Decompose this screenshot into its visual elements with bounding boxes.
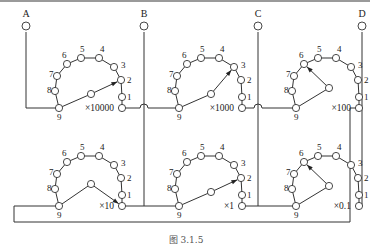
contact-label: 7 [169,69,174,79]
contact-label: 2 [247,173,252,183]
contact-label: 9 [294,210,299,220]
contact-label: 6 [182,148,187,158]
contact [183,158,190,165]
terminal-a: A [22,8,30,30]
contact [63,60,70,67]
contact [332,152,339,159]
contact [55,202,62,209]
resistance-box-diagram: 123456789×10000123456789×1000123456789×1… [0,0,370,251]
contact-label: 9 [57,112,62,122]
contact-label: 3 [241,158,246,168]
decade-switches: 123456789×10000123456789×1000123456789×1… [47,44,369,220]
terminal-label: A [22,8,30,19]
contact [63,158,70,165]
contact [347,63,354,70]
multiplier-label: ×1 [224,201,234,211]
contact [173,170,180,177]
terminal-post-icon [140,22,148,30]
contact-label: 7 [286,167,291,177]
contact-label: 3 [241,60,246,70]
terminal-label: B [141,8,148,19]
decade-switch: 123456789×10 [47,142,132,220]
contact-label: 5 [80,44,85,54]
contact-label: 8 [167,85,172,95]
multiplier-label: ×1000 [210,103,235,113]
contact-label: 5 [317,44,322,54]
contact-label: 2 [364,173,369,183]
switch-pivot [207,90,214,97]
contact [314,152,321,159]
contact-label: 4 [220,44,225,54]
contact-label: 1 [127,190,132,200]
contact-label: 1 [247,190,252,200]
switch-pivot [87,180,94,187]
contact [290,170,297,177]
decade-switch: 123456789×0.1 [284,142,369,220]
terminal-b: B [140,8,148,30]
contact [117,76,124,83]
contact-label: 3 [358,158,363,168]
contact-label: 7 [169,167,174,177]
contact-label: 2 [127,173,132,183]
contact [175,202,182,209]
contact [77,152,84,159]
contact [171,87,178,94]
contact-label: 9 [294,112,299,122]
decade-switch: 123456789×100 [284,44,369,122]
contact [110,63,117,70]
contact-label: 4 [100,44,105,54]
contact [354,76,361,83]
contact-label: 8 [284,183,289,193]
contact-label: 7 [286,69,291,79]
decade-switch: 123456789×1 [167,142,252,220]
arrow-icon [111,82,117,87]
contact-label: 5 [317,142,322,152]
contact-label: 6 [62,148,67,158]
contact [55,104,62,111]
contact [314,54,321,61]
contact-label: 8 [167,183,172,193]
switch-pivot [325,182,332,189]
contact [175,104,182,111]
figure-caption: 图 3.1.5 [169,235,204,245]
terminal-label: C [255,8,262,19]
contact-label: 5 [80,142,85,152]
multiplier-label: ×0.1 [334,201,351,211]
contact-label: 2 [127,75,132,85]
terminals: ABCD [22,8,366,30]
contact [237,174,244,181]
contact [292,104,299,111]
contact [300,60,307,67]
multiplier-label: ×100 [331,103,351,113]
contact-label: 6 [182,50,187,60]
switch-pivot [325,84,332,91]
switch-pivot [207,188,214,195]
contact-label: 6 [299,148,304,158]
contact [171,185,178,192]
contact [183,60,190,67]
contact [53,72,60,79]
arrow-icon [231,180,237,185]
contact [237,76,244,83]
contact [173,72,180,79]
terminal-c: C [254,8,262,30]
switch-pivot [87,90,94,97]
contact [110,161,117,168]
contact-label: 2 [364,75,369,85]
contact-label: 4 [337,142,342,152]
decade-switch: 123456789×10000 [47,44,132,122]
contact-label: 5 [200,44,205,54]
contact-label: 3 [121,60,126,70]
contact [292,202,299,209]
contact [347,161,354,168]
contact-label: 1 [364,92,369,102]
contact [332,54,339,61]
contact [238,93,245,100]
contact-label: 3 [358,60,363,70]
contact [230,63,237,70]
contact [215,54,222,61]
contact-label: 6 [299,50,304,60]
exit-contact [355,202,362,209]
contact [290,72,297,79]
contact-label: 9 [177,210,182,220]
